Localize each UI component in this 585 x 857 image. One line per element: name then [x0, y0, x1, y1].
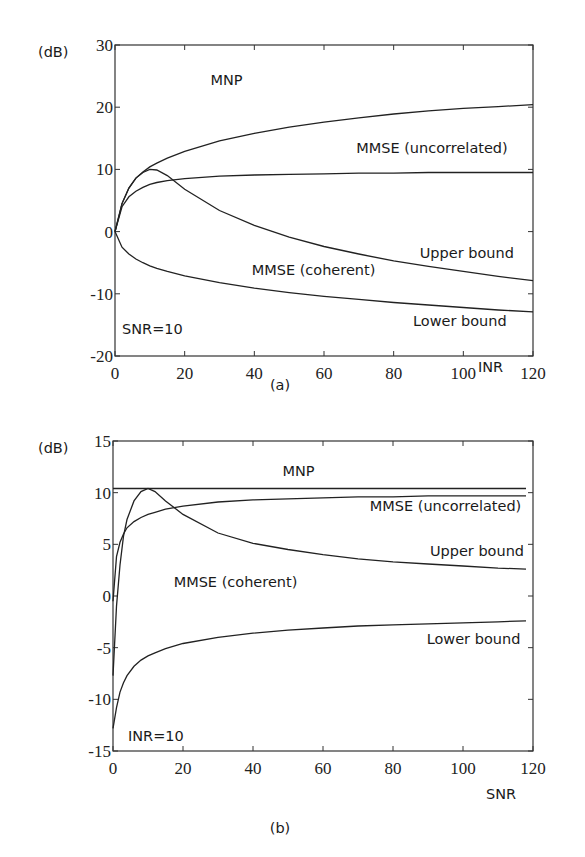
- x-tick-label: 40: [246, 364, 263, 383]
- y-tick-label: 20: [96, 98, 113, 117]
- y-tick-label: -15: [88, 742, 111, 761]
- y-tick-label: -20: [90, 347, 113, 366]
- x-tick-label: 80: [385, 364, 402, 383]
- y-tick-label: 10: [96, 160, 113, 179]
- y-tick-label: -10: [90, 285, 113, 304]
- y-tick-label: 10: [94, 484, 111, 503]
- y-axis-label: (dB): [38, 44, 68, 60]
- parameter-annotation: SNR=10: [122, 321, 183, 337]
- x-tick-label: 20: [175, 759, 192, 778]
- plot-frame: [113, 441, 533, 751]
- x-axis-label: SNR: [486, 786, 516, 802]
- x-tick-label: 100: [451, 364, 477, 383]
- y-tick-label: 0: [105, 223, 114, 242]
- parameter-annotation: INR=10: [128, 728, 184, 744]
- curve-label: Lower bound: [427, 631, 521, 647]
- x-tick-label: 0: [111, 364, 120, 383]
- x-tick-label: 120: [520, 364, 546, 383]
- plot-frame: [115, 45, 533, 356]
- y-tick-label: 15: [94, 432, 111, 451]
- y-tick-label: -10: [88, 690, 111, 709]
- curve-label: MMSE (uncorrelated): [370, 498, 522, 514]
- curve-label: Upper bound: [420, 245, 514, 261]
- y-tick-label: 5: [103, 535, 112, 554]
- x-axis-label: INR: [478, 359, 503, 375]
- curve-label: MMSE (coherent): [174, 574, 298, 590]
- x-tick-label: 120: [520, 759, 546, 778]
- x-tick-label: 60: [316, 364, 333, 383]
- x-tick-label: 0: [109, 759, 118, 778]
- x-tick-label: 40: [245, 759, 262, 778]
- x-tick-label: 100: [450, 759, 476, 778]
- series-line-mnp: [115, 105, 533, 232]
- curve-label: MMSE (coherent): [252, 262, 376, 278]
- y-axis-label: (dB): [38, 440, 68, 456]
- chart-b: 020406080100120-15-10-5051015MNPMMSE (un…: [38, 432, 546, 836]
- panel-caption: (a): [270, 377, 290, 393]
- x-tick-label: 20: [176, 364, 193, 383]
- curve-label: MMSE (uncorrelated): [356, 140, 508, 156]
- x-tick-label: 80: [385, 759, 402, 778]
- curve-label: MNP: [210, 72, 242, 88]
- figure-canvas: 020406080100120-20-100102030MNPMMSE (unc…: [0, 0, 585, 857]
- y-tick-label: -5: [97, 639, 111, 658]
- series-line-mmse-uncorrelated: [115, 173, 533, 232]
- curve-label: Upper bound: [430, 543, 524, 559]
- y-tick-label: 0: [103, 587, 112, 606]
- chart-a: 020406080100120-20-100102030MNPMMSE (unc…: [38, 36, 546, 393]
- curve-label: MNP: [282, 463, 314, 479]
- y-tick-label: 30: [96, 36, 113, 55]
- curve-label: Lower bound: [413, 313, 507, 329]
- x-tick-label: 60: [315, 759, 332, 778]
- panel-caption: (b): [270, 820, 291, 836]
